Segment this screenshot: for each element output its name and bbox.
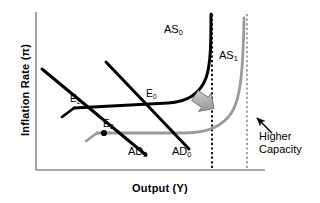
point-label-e2-sub: 2 <box>77 98 81 105</box>
point-label-e0-text: E <box>146 88 153 99</box>
higher-capacity-annotation: Higher Capacity <box>259 130 302 156</box>
point-label-e2-text: E <box>70 93 77 104</box>
equilibrium-marker-e3 <box>101 130 107 136</box>
point-label-e3: E3 <box>103 118 114 129</box>
point-label-e2: E2 <box>70 93 81 104</box>
point-label-e3-text: E <box>103 118 110 129</box>
as0-label: AS0 <box>164 24 183 36</box>
y-axis-title: Inflation Rate (π) <box>19 20 31 160</box>
ad2-label-text: AD <box>128 145 143 157</box>
diagram-canvas <box>0 0 320 203</box>
as1-label-text: AS <box>219 49 234 61</box>
as0-curve <box>62 14 211 117</box>
x-axis-title: Output (Y) <box>90 182 230 194</box>
economics-diagram: Inflation Rate (π) Output (Y) AS0 AS1 AD… <box>0 0 320 203</box>
ad0-label-text: AD <box>172 145 187 157</box>
ad0-label: AD0 <box>172 146 191 158</box>
point-label-e3-sub: 3 <box>110 123 114 130</box>
ad2-label: AD2 <box>128 146 147 158</box>
as1-label-sub: 1 <box>234 54 238 63</box>
point-label-e0: E0 <box>146 88 157 99</box>
higher-capacity-line1: Higher <box>259 130 302 143</box>
higher-capacity-line2: Capacity <box>259 143 302 156</box>
as0-label-text: AS <box>164 23 179 35</box>
ad2-curve <box>42 69 146 155</box>
shift-block-arrow <box>189 86 220 117</box>
capacity-lines <box>212 14 247 169</box>
ad2-label-sub: 2 <box>143 150 147 159</box>
ad2-line <box>42 69 146 155</box>
point-label-e0-sub: 0 <box>153 93 157 100</box>
ad0-label-sub: 0 <box>187 150 191 159</box>
as1-label: AS1 <box>219 50 238 62</box>
as0-label-sub: 0 <box>179 28 183 37</box>
